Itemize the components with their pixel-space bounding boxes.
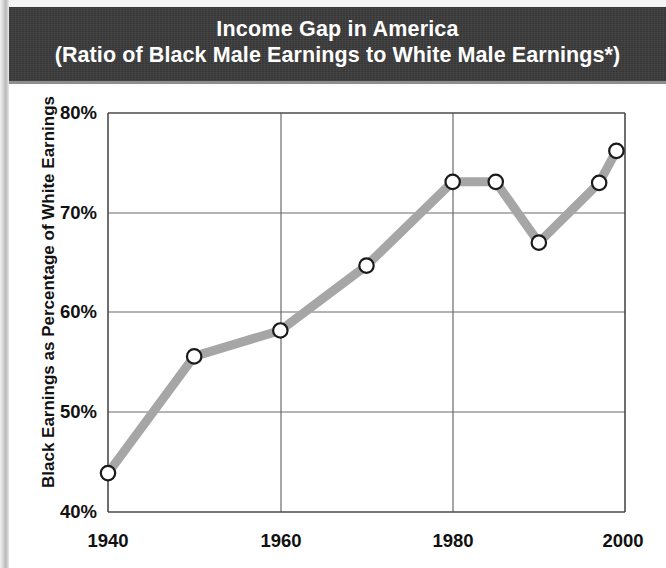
page-subtitle: (Ratio of Black Male Earnings to White M… — [55, 43, 621, 68]
data-point — [532, 235, 546, 249]
chart-area: Black Earnings as Percentage of White Ea… — [9, 87, 666, 568]
data-point — [609, 144, 623, 158]
data-point — [101, 466, 115, 480]
page-left-edge — [0, 0, 9, 568]
grid-lines — [108, 113, 625, 512]
data-point — [489, 175, 503, 189]
chart-title-banner: Income Gap in America (Ratio of Black Ma… — [9, 7, 666, 84]
data-point — [359, 258, 373, 272]
page-top-edge — [0, 0, 666, 7]
page-title: Income Gap in America — [216, 18, 458, 42]
plot-svg — [9, 87, 666, 568]
data-point — [187, 349, 201, 363]
data-point — [445, 175, 459, 189]
data-point — [273, 323, 287, 337]
chart-page: Income Gap in America (Ratio of Black Ma… — [0, 0, 666, 568]
data-point — [592, 176, 606, 190]
